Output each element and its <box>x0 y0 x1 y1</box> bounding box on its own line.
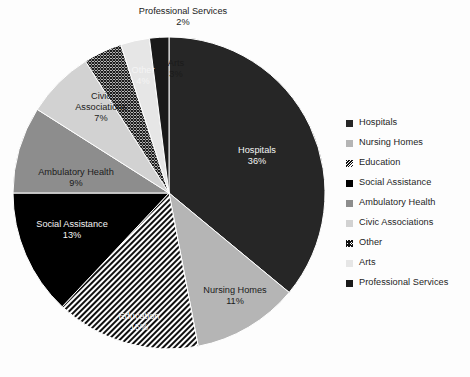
legend-swatch-other <box>346 240 353 247</box>
legend-item-other[interactable]: Other <box>346 233 470 253</box>
legend-label-professional-services: Professional Services <box>359 278 448 287</box>
pie-chart-plot-area: Hospitals36%Nursing Homes11%Education15%… <box>0 0 340 377</box>
legend-swatch-nursing-homes <box>346 140 353 147</box>
legend-swatch-social-assistance <box>346 180 353 187</box>
legend-item-education[interactable]: Education <box>346 153 470 173</box>
pie-label-arts: Arts3% <box>168 58 185 79</box>
legend-label-hospitals: Hospitals <box>359 118 397 127</box>
legend-item-ambulatory-health[interactable]: Ambulatory Health <box>346 193 470 213</box>
legend-label-education: Education <box>359 158 400 167</box>
legend-item-civic-associations[interactable]: Civic Associations <box>346 213 470 233</box>
legend-label-other: Other <box>359 238 382 247</box>
legend-label-nursing-homes: Nursing Homes <box>359 138 423 147</box>
legend-swatch-professional-services <box>346 280 353 287</box>
legend-label-civic-associations: Civic Associations <box>359 218 433 227</box>
legend-item-hospitals[interactable]: Hospitals <box>346 113 470 133</box>
legend-swatch-hospitals <box>346 120 353 127</box>
legend-item-arts[interactable]: Arts <box>346 253 470 273</box>
pie-label-professional-services: Professional Services2% <box>139 6 228 27</box>
legend-label-ambulatory-health: Ambulatory Health <box>359 198 435 207</box>
legend-item-nursing-homes[interactable]: Nursing Homes <box>346 133 470 153</box>
legend-item-social-assistance[interactable]: Social Assistance <box>346 173 470 193</box>
legend-swatch-civic-associations <box>346 220 353 227</box>
legend-label-arts: Arts <box>359 258 376 267</box>
pie-chart-figure: Hospitals36%Nursing Homes11%Education15%… <box>0 0 470 377</box>
legend-swatch-ambulatory-health <box>346 200 353 207</box>
legend-item-professional-services[interactable]: Professional Services <box>346 273 470 293</box>
legend-swatch-education <box>346 160 353 167</box>
legend-swatch-arts <box>346 260 353 267</box>
pie-slices-group <box>13 37 325 349</box>
legend-label-social-assistance: Social Assistance <box>359 178 431 187</box>
pie-chart-svg: Hospitals36%Nursing Homes11%Education15%… <box>0 0 340 377</box>
chart-legend: Hospitals Nursing Homes Education Social… <box>346 113 470 293</box>
